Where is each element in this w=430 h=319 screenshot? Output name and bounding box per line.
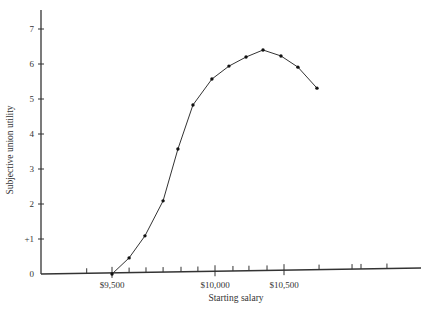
data-point	[261, 48, 264, 51]
data-point	[191, 103, 194, 106]
series-line	[112, 50, 317, 274]
data-point	[244, 55, 247, 58]
data-point	[127, 256, 130, 259]
data-point	[227, 64, 230, 67]
y-tick-label: 2	[30, 199, 35, 209]
data-point	[143, 234, 146, 237]
data-point	[210, 77, 213, 80]
y-tick-label: 0	[30, 269, 35, 279]
data-point	[296, 65, 299, 68]
data-point	[279, 54, 282, 57]
y-axis-title: Subjective union utility	[5, 105, 15, 194]
data-point	[176, 147, 179, 150]
x-tick-label: $10,000	[200, 280, 230, 290]
data-point	[110, 272, 113, 275]
x-axis-title: Starting salary	[208, 293, 263, 303]
x-axis-line	[41, 268, 421, 274]
axes	[41, 10, 421, 274]
data-point	[161, 199, 164, 202]
y-tick-label: 7	[30, 24, 35, 34]
y-tick-label: 5	[30, 94, 35, 104]
y-tick-label: 3	[30, 164, 35, 174]
y-tick-label: 6	[30, 59, 35, 69]
x-ticks: $9,500$10,000$10,500	[87, 264, 387, 290]
series	[110, 48, 318, 275]
x-tick-label: $9,500	[100, 280, 125, 290]
data-point	[315, 86, 318, 89]
x-tick-label: $10,500	[269, 280, 299, 290]
y-tick-label: +1	[24, 234, 34, 244]
y-tick-label: 4	[30, 129, 35, 139]
utility-chart: 0+1234567 $9,500$10,000$10,500 Subjectiv…	[0, 0, 430, 319]
